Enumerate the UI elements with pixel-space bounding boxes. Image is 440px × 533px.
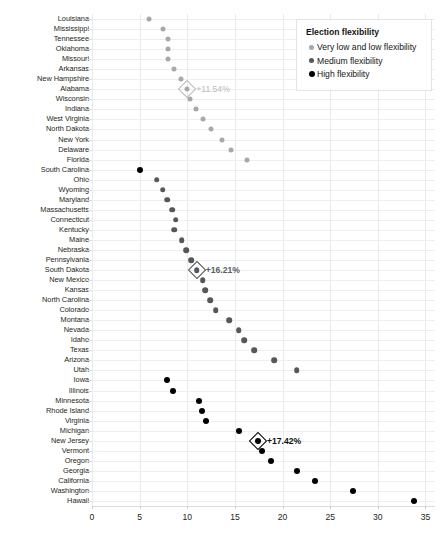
data-point[interactable]	[160, 187, 166, 193]
data-point[interactable]	[154, 177, 160, 183]
x-axis-tick-label: 0	[90, 512, 95, 522]
data-point[interactable]	[242, 338, 248, 344]
gridline-horizontal	[92, 260, 435, 261]
dot-plot-chart: +11.54%+16.21%+17.42% LouisianaMississip…	[0, 0, 440, 533]
legend-item-medium[interactable]: Medium flexibility	[306, 56, 423, 67]
category-label: Rhode Island	[3, 406, 89, 416]
data-point[interactable]	[219, 137, 224, 142]
gridline-horizontal	[92, 300, 435, 301]
gridline-horizontal	[92, 491, 435, 492]
category-label: Tennessee	[3, 34, 89, 44]
category-tick	[88, 89, 92, 90]
category-tick	[88, 441, 92, 442]
data-point[interactable]	[188, 257, 194, 263]
data-point[interactable]	[199, 408, 205, 414]
data-point[interactable]	[161, 27, 166, 32]
category-label: New York	[3, 135, 89, 145]
data-point[interactable]	[188, 97, 193, 102]
data-point[interactable]	[251, 348, 257, 354]
data-point[interactable]	[166, 57, 171, 62]
category-label: Maine	[3, 235, 89, 245]
x-axis-tick	[378, 506, 379, 509]
data-point[interactable]	[226, 317, 232, 323]
data-point[interactable]	[178, 77, 183, 82]
legend-item-high[interactable]: High flexibility	[306, 69, 423, 80]
data-point[interactable]	[184, 247, 190, 253]
gridline-horizontal	[92, 150, 435, 151]
category-tick	[88, 170, 92, 171]
highlight-diamond-marker[interactable]	[178, 80, 196, 98]
category-label: Maryland	[3, 195, 89, 205]
category-label: Alabama	[3, 84, 89, 94]
data-point[interactable]	[236, 327, 242, 333]
gridline-horizontal	[92, 461, 435, 462]
category-label: Nevada	[3, 325, 89, 335]
data-point[interactable]	[137, 167, 143, 173]
data-point[interactable]	[213, 307, 219, 313]
data-point[interactable]	[169, 207, 175, 213]
category-label: Wyoming	[3, 185, 89, 195]
data-point[interactable]	[173, 217, 179, 223]
gridline-horizontal	[92, 431, 435, 432]
gridline-horizontal	[92, 471, 435, 472]
data-point[interactable]	[203, 287, 209, 293]
category-tick	[88, 461, 92, 462]
category-tick	[88, 330, 92, 331]
data-point[interactable]	[164, 197, 170, 203]
data-point[interactable]	[209, 127, 214, 132]
data-point[interactable]	[196, 398, 202, 404]
category-label: Mississippi	[3, 24, 89, 34]
data-point[interactable]	[245, 157, 250, 162]
legend-item-verylow[interactable]: Very low and low flexibility	[306, 42, 423, 53]
x-axis-tick-label: 25	[325, 512, 335, 522]
x-axis-tick	[330, 506, 331, 509]
data-point[interactable]	[200, 277, 206, 283]
data-point[interactable]	[294, 468, 300, 474]
data-point[interactable]	[166, 37, 171, 42]
category-tick	[88, 340, 92, 341]
gridline-horizontal	[92, 119, 435, 120]
data-point[interactable]	[207, 297, 213, 303]
category-label: Oregon	[3, 456, 89, 466]
data-point[interactable]	[171, 227, 177, 233]
data-point[interactable]	[171, 67, 176, 72]
data-point[interactable]	[411, 498, 417, 504]
category-tick	[88, 320, 92, 321]
data-point[interactable]	[147, 17, 152, 22]
data-point[interactable]	[236, 428, 242, 434]
gridline-horizontal	[92, 310, 435, 311]
data-point[interactable]	[164, 377, 170, 383]
x-axis: 05101520253035	[92, 506, 435, 533]
data-point[interactable]	[268, 458, 274, 464]
data-point[interactable]	[203, 418, 209, 424]
data-point[interactable]	[294, 368, 300, 374]
category-tick	[88, 190, 92, 191]
data-point[interactable]	[179, 237, 185, 243]
data-point[interactable]	[229, 147, 234, 152]
data-point[interactable]	[201, 117, 206, 122]
category-label: Idaho	[3, 335, 89, 345]
category-label: Utah	[3, 365, 89, 375]
category-label: North Carolina	[3, 295, 89, 305]
x-axis-tick-label: 5	[137, 512, 142, 522]
category-tick	[88, 471, 92, 472]
legend[interactable]: Election flexibility Very low and low fl…	[296, 19, 432, 91]
gridline-horizontal	[92, 391, 435, 392]
category-label: Iowa	[3, 375, 89, 385]
gridline-horizontal	[92, 190, 435, 191]
data-point[interactable]	[166, 47, 171, 52]
data-point[interactable]	[170, 388, 176, 394]
data-point[interactable]	[312, 478, 318, 484]
data-point[interactable]	[193, 107, 198, 112]
data-point[interactable]	[271, 358, 277, 364]
category-tick	[88, 109, 92, 110]
gridline-horizontal	[92, 380, 435, 381]
gridline-horizontal	[92, 280, 435, 281]
category-tick	[88, 350, 92, 351]
category-tick	[88, 310, 92, 311]
data-point[interactable]	[350, 488, 356, 494]
highlight-diamond-marker[interactable]	[249, 432, 267, 450]
gridline-horizontal	[92, 180, 435, 181]
category-label: Arkansas	[3, 64, 89, 74]
category-tick	[88, 300, 92, 301]
